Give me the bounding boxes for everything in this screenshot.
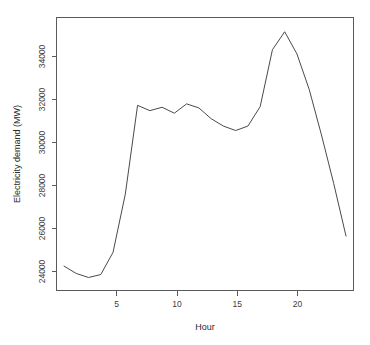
y-tick-label-32000: 32000	[37, 87, 47, 111]
plot-panel-border	[57, 18, 354, 291]
x-axis-title: Hour	[195, 322, 215, 332]
y-axis-ticks	[52, 57, 57, 272]
x-tick-label-5: 5	[114, 299, 119, 309]
x-axis-ticks	[117, 291, 298, 296]
electricity-demand-line-chart: 24000 26000 28000 30000 32000 34000 5 10…	[0, 0, 370, 345]
y-tick-label-24000: 24000	[37, 259, 47, 283]
y-tick-label-26000: 26000	[37, 216, 47, 240]
y-tick-label-30000: 30000	[37, 130, 47, 154]
y-axis-title: Electricity demand (MW)	[12, 105, 22, 203]
y-tick-label-28000: 28000	[37, 173, 47, 197]
x-tick-label-10: 10	[172, 299, 182, 309]
x-tick-label-20: 20	[293, 299, 303, 309]
y-axis-tick-labels: 24000 26000 28000 30000 32000 34000	[37, 44, 47, 283]
chart-figure: 24000 26000 28000 30000 32000 34000 5 10…	[0, 0, 370, 345]
y-tick-label-34000: 34000	[37, 44, 47, 68]
demand-series-line	[64, 32, 346, 278]
x-axis-tick-labels: 5 10 15 20	[114, 299, 302, 309]
x-tick-label-15: 15	[233, 299, 243, 309]
